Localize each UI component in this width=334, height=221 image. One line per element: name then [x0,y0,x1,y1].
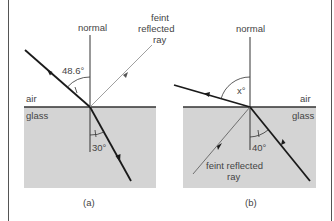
normal-label-a: normal [78,22,107,33]
angle-label-incident-a: 48.6° [62,65,84,76]
medium-top-label-a: air [26,93,37,104]
medium-top-label-b: air [300,93,311,104]
normal-label-b: normal [236,23,265,34]
reflected-label-a-line3: ray [153,34,166,45]
angle-label-incident-b: 40° [252,142,267,153]
angle-label-refracted-a: 30° [92,142,107,153]
medium-bottom-label-b: glass [292,110,314,121]
reflected-label-a-line2: reflected [138,23,174,34]
angle-label-emergent-b: x° [237,85,246,96]
reflected-label-b-line1: feint reflected [206,160,263,171]
arrow-icon [47,70,53,76]
caption-b: (b) [245,197,257,208]
reflected-ray-a [90,45,152,107]
angle-arc-incident-a [68,77,91,87]
panel-b: normal x° 40° air glass feint reflected … [174,23,316,208]
refraction-diagram: normal 48.6° 30° air glass feint reflect… [0,0,334,221]
panel-a: normal 48.6° 30° air glass feint reflect… [24,12,174,208]
reflected-label-b-line2: ray [227,171,240,182]
caption-a: (a) [83,197,95,208]
angle-arc-emergent-b [221,77,250,99]
reflected-label-a-line1: feint [151,12,169,23]
medium-bottom-label-a: glass [26,110,48,121]
